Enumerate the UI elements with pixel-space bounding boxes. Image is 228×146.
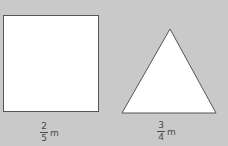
diagram-canvas <box>0 0 228 146</box>
triangle-side-label: 3 4 m <box>157 121 176 142</box>
square-numerator: 2 <box>41 122 47 131</box>
triangle-fraction: 3 4 <box>157 121 165 142</box>
square-shape <box>4 16 99 112</box>
triangle-unit: m <box>167 127 176 137</box>
triangle-shape <box>122 29 216 113</box>
square-side-label: 2 5 m <box>40 122 59 143</box>
square-unit: m <box>50 128 59 138</box>
square-fraction: 2 5 <box>40 122 48 143</box>
square-denominator: 5 <box>41 134 47 143</box>
triangle-denominator: 4 <box>158 133 164 142</box>
triangle-numerator: 3 <box>158 121 164 130</box>
